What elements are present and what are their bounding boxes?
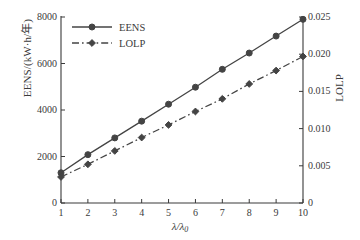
- plot-area: EENSLOLP: [0, 0, 360, 240]
- legend-label-lolp: LOLP: [119, 38, 145, 49]
- data-point-lolp-8: [246, 81, 253, 88]
- data-point-eens-4: [139, 118, 145, 124]
- data-point-eens-2: [85, 152, 91, 158]
- data-point-lolp-5: [165, 121, 172, 128]
- data-point-eens-6: [192, 84, 198, 90]
- data-point-eens-9: [273, 33, 279, 39]
- legend-label-eens: EENS: [119, 22, 145, 33]
- data-point-eens-7: [219, 66, 225, 72]
- data-point-lolp-2: [84, 161, 91, 168]
- data-point-lolp-3: [111, 148, 118, 155]
- data-point-eens-5: [166, 101, 172, 107]
- legend-marker-lolp: [89, 40, 96, 47]
- data-point-eens-10: [300, 16, 306, 22]
- data-point-lolp-4: [138, 134, 145, 141]
- data-point-lolp-6: [192, 108, 199, 115]
- series-line-lolp: [61, 56, 303, 177]
- data-point-eens-8: [246, 50, 252, 56]
- chart-figure: EENS/(kW·h/年) LOLP λ/λ0 0200040006000800…: [0, 0, 360, 240]
- data-point-eens-3: [112, 135, 118, 141]
- series-line-eens: [61, 19, 303, 172]
- data-point-lolp-7: [219, 95, 226, 102]
- data-point-lolp-9: [273, 67, 280, 74]
- legend-marker-eens: [89, 24, 95, 30]
